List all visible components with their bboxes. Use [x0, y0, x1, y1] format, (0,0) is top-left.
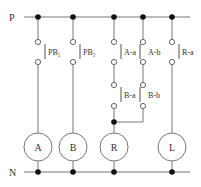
load-label-b: B — [70, 142, 77, 153]
pb1-contact-bottom — [35, 59, 40, 64]
load-label-a: A — [34, 142, 42, 153]
n-rail-label: N — [9, 167, 16, 178]
pb1-contact-top — [35, 39, 40, 44]
switch-label-bb: B-b — [148, 91, 160, 100]
ladder-circuit-diagram: P N PB₁ PB₂ A-a A-b R-a B-a B-b A B R L — [0, 0, 201, 187]
switch-label-pb2: PB₂ — [83, 48, 96, 57]
load-label-l: L — [169, 142, 175, 153]
load-label-r: R — [111, 142, 118, 153]
switch-label-ab: A-b — [148, 48, 160, 57]
switch-label-ba: B-a — [124, 91, 136, 100]
switch-label-pb1: PB₁ — [48, 48, 61, 57]
switch-label-ra: R-a — [182, 48, 194, 57]
switch-label-aa: A-a — [124, 48, 136, 57]
p-rail-label: P — [9, 12, 15, 23]
